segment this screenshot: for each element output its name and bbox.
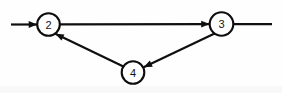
node-2-label: 2: [45, 19, 51, 31]
node-4-label: 4: [130, 67, 136, 79]
node-3[interactable]: 3: [210, 12, 234, 36]
node-2[interactable]: 2: [37, 13, 60, 36]
directed-graph-diagram: 2 3 4: [0, 0, 282, 93]
node-3-label: 3: [218, 18, 224, 30]
diagram-canvas-container: 2 3 4: [0, 0, 282, 93]
node-4[interactable]: 4: [122, 61, 145, 84]
scan-noise-band-bottom: [0, 86, 282, 93]
